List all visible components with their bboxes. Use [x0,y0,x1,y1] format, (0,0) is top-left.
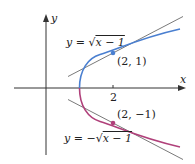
sqrt-icon: √ [96,132,103,145]
y-axis-label: y [51,13,57,24]
point-2-neg1 [111,121,116,126]
x-axis-label: x [180,74,186,85]
equation-radicand: x − 1 [103,132,132,145]
point-2-1 [111,51,116,56]
lower-curve-equation: y = −√x − 1 [64,133,132,144]
y-axis-arrow-icon [43,14,49,22]
equation-lhs: y = [66,36,88,49]
point-label-2-neg1: (2, −1) [117,109,156,120]
equation-radicand: x − 1 [95,36,124,49]
figure: y x 2 y = √x − 1 y = −√x − 1 (2, 1) (2, … [0,0,195,164]
equation-lhs: y = − [64,132,96,145]
point-label-2-1: (2, 1) [117,56,147,67]
upper-curve-equation: y = √x − 1 [66,37,125,48]
x-tick-label: 2 [110,92,117,103]
